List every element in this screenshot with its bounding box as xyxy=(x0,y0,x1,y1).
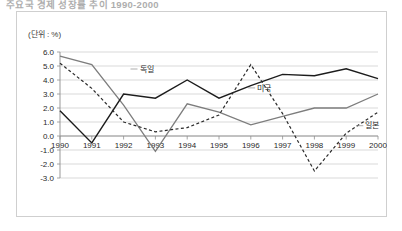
x-tick-label: 1992 xyxy=(115,141,133,150)
y-tick-label: 4.0 xyxy=(43,76,55,85)
page-title: 주요국 경제 성장률 추이 1990-2000 xyxy=(6,0,159,11)
y-tick-label: -3.0 xyxy=(40,174,54,183)
x-tick-label: 2000 xyxy=(369,141,387,150)
y-tick-label: 3.0 xyxy=(43,90,55,99)
x-tick-label: 1995 xyxy=(210,141,228,150)
series-label-미국: 미국 xyxy=(257,84,271,93)
y-tick-label: -2.0 xyxy=(40,160,54,169)
y-tick-label: 0.0 xyxy=(43,132,55,141)
x-tick-label: 1994 xyxy=(178,141,196,150)
x-axis-ticks: 1990199119921993199419951996199719981999… xyxy=(51,136,387,150)
y-axis-ticks: 6.05.04.03.02.01.00.0-1.0-2.0-3.0 xyxy=(40,48,54,183)
series-label-일본: 일본 xyxy=(365,121,379,130)
series-annotations: 독일미국일본 xyxy=(131,65,380,131)
y-tick-label: 2.0 xyxy=(43,104,55,113)
x-tick-label: 1998 xyxy=(306,141,324,150)
x-tick-label: 1997 xyxy=(274,141,292,150)
chart-plot-area: 6.05.04.03.02.01.00.0-1.0-2.0-3.0 199019… xyxy=(16,11,387,217)
series-label-독일: 독일 xyxy=(140,65,154,74)
y-tick-label: 6.0 xyxy=(43,48,55,57)
line-chart: 6.05.04.03.02.01.00.0-1.0-2.0-3.0 199019… xyxy=(16,11,387,217)
series-lines xyxy=(60,56,378,171)
x-tick-label: 1996 xyxy=(242,141,260,150)
y-tick-label: 1.0 xyxy=(43,118,55,127)
series-line-일본 xyxy=(60,63,378,171)
y-tick-label: 5.0 xyxy=(43,62,55,71)
x-tick-label: 1999 xyxy=(337,141,355,150)
